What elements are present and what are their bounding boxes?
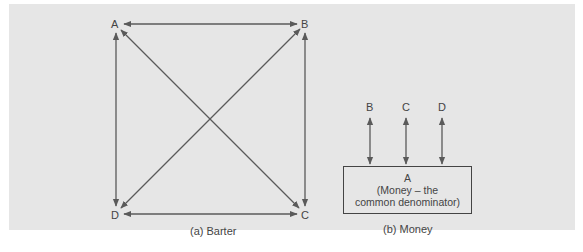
money-caption: (b) Money: [383, 223, 433, 235]
money-box-title: A: [344, 172, 471, 184]
money-box-line2: common denominator): [344, 196, 471, 208]
connection-arrows: [0, 0, 583, 252]
money-node-b: B: [366, 101, 373, 113]
node-d: D: [111, 209, 119, 221]
node-c: C: [301, 209, 309, 221]
barter-caption: (a) Barter: [190, 225, 236, 237]
money-node-c: C: [402, 101, 410, 113]
money-box: A (Money – the common denominator): [343, 166, 472, 214]
money-node-d: D: [438, 101, 446, 113]
node-b: B: [301, 18, 308, 30]
node-a: A: [111, 18, 118, 30]
money-box-line1: (Money – the: [344, 184, 471, 196]
